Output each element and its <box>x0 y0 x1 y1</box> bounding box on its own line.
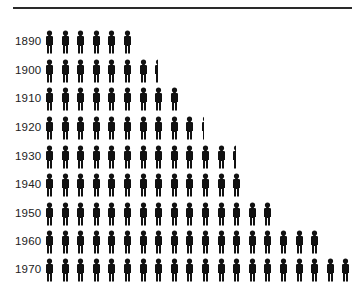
person-icon <box>61 173 70 197</box>
person-icon <box>139 258 148 282</box>
person-icon <box>45 145 54 169</box>
person-icon <box>139 145 148 169</box>
person-icon <box>61 230 70 254</box>
person-icon <box>170 116 179 140</box>
person-icon <box>92 258 101 282</box>
person-icon <box>107 59 116 83</box>
person-icon <box>170 258 179 282</box>
person-icon <box>45 116 54 140</box>
person-icon <box>76 258 85 282</box>
person-icon <box>154 145 163 169</box>
person-icon <box>76 30 85 54</box>
person-icon <box>232 173 241 197</box>
person-icon <box>263 230 272 254</box>
person-icon <box>45 173 54 197</box>
person-icon <box>217 173 226 197</box>
person-icon <box>139 230 148 254</box>
person-icon <box>45 87 54 111</box>
person-icon <box>92 30 101 54</box>
row-label: 1900 <box>15 64 41 76</box>
pictogram-row-1940: 1940 <box>0 172 364 198</box>
person-icon <box>185 145 194 169</box>
person-icon <box>123 30 132 54</box>
person-icon <box>76 145 85 169</box>
row-label: 1940 <box>15 178 41 190</box>
person-icon <box>123 202 132 226</box>
person-icon <box>201 202 210 226</box>
top-rule <box>13 7 352 9</box>
row-label: 1910 <box>15 92 41 104</box>
person-icon <box>310 258 319 282</box>
person-icon <box>201 230 210 254</box>
person-icon <box>170 173 179 197</box>
person-icon <box>123 230 132 254</box>
pictogram-row-1930: 1930 <box>0 144 364 170</box>
person-icon <box>45 59 54 83</box>
person-icon <box>248 258 257 282</box>
person-icon <box>61 145 70 169</box>
person-icon <box>45 202 54 226</box>
person-icon <box>248 202 257 226</box>
pictogram-row-1970: 1970 <box>0 257 364 283</box>
person-icon <box>107 87 116 111</box>
person-icon <box>326 258 335 282</box>
person-icon <box>61 202 70 226</box>
row-label: 1950 <box>15 207 41 219</box>
person-icon <box>45 30 54 54</box>
person-icon <box>107 145 116 169</box>
person-icon <box>123 258 132 282</box>
person-icon <box>139 173 148 197</box>
person-icon <box>107 116 116 140</box>
person-icon <box>92 230 101 254</box>
person-icon <box>107 258 116 282</box>
pictogram-row-1920: 1920 <box>0 115 364 141</box>
person-icon <box>139 87 148 111</box>
pictogram-row-1910: 1910 <box>0 86 364 112</box>
person-icon <box>123 145 132 169</box>
person-icon <box>263 258 272 282</box>
person-icon <box>201 173 210 197</box>
person-icon <box>263 202 272 226</box>
person-icon <box>170 230 179 254</box>
person-icon <box>107 230 116 254</box>
person-icon <box>107 202 116 226</box>
row-label: 1920 <box>15 121 41 133</box>
person-icon <box>123 59 132 83</box>
person-icon <box>61 258 70 282</box>
person-icon <box>310 230 319 254</box>
person-icon <box>76 59 85 83</box>
row-label: 1890 <box>15 35 41 47</box>
person-icon <box>170 87 179 111</box>
person-icon <box>76 116 85 140</box>
person-icon <box>123 173 132 197</box>
person-icon <box>232 202 241 226</box>
partial-person-icon <box>232 145 236 169</box>
person-icon <box>123 116 132 140</box>
person-icon <box>107 30 116 54</box>
person-icon <box>154 230 163 254</box>
person-icon <box>185 230 194 254</box>
row-label: 1970 <box>15 263 41 275</box>
person-icon <box>92 87 101 111</box>
person-icon <box>92 59 101 83</box>
person-icon <box>217 202 226 226</box>
pictogram-row-1960: 1960 <box>0 229 364 255</box>
person-icon <box>185 173 194 197</box>
person-icon <box>170 145 179 169</box>
person-icon <box>139 59 148 83</box>
person-icon <box>341 258 350 282</box>
person-icon <box>92 116 101 140</box>
row-label: 1930 <box>15 150 41 162</box>
person-icon <box>92 202 101 226</box>
person-icon <box>123 87 132 111</box>
person-icon <box>185 202 194 226</box>
person-icon <box>76 230 85 254</box>
person-icon <box>217 145 226 169</box>
person-icon <box>217 230 226 254</box>
person-icon <box>201 145 210 169</box>
person-icon <box>217 258 226 282</box>
person-icon <box>279 230 288 254</box>
person-icon <box>248 230 257 254</box>
person-icon <box>45 230 54 254</box>
person-icon <box>76 202 85 226</box>
